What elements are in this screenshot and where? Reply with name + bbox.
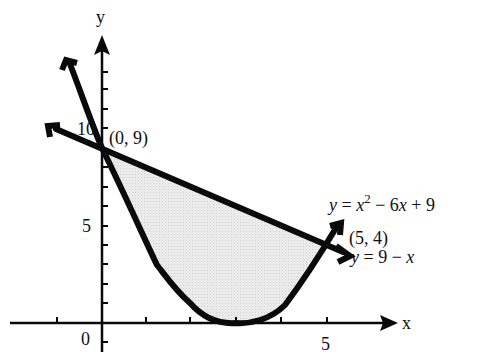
eq-var-y: y <box>327 195 337 215</box>
parabola-equation-label: y = x2 − 6x + 9 <box>327 191 435 215</box>
point-label-0-9: (0, 9) <box>109 128 148 149</box>
graph-canvas: y x 0 5 5 10 (0, 9) (5, 4) y = x2 − 6x +… <box>0 0 478 355</box>
x-tick-label-5: 5 <box>321 334 330 354</box>
line-eq-mid: = 9 − <box>359 247 406 267</box>
line-equation-label: y = 9 − x <box>349 247 414 267</box>
origin-label: 0 <box>81 329 90 349</box>
line-eq-x: x <box>405 247 414 267</box>
y-axis <box>94 35 110 352</box>
eq-plus-9: + 9 <box>407 195 435 215</box>
line-eq-y: y <box>349 247 359 267</box>
eq-var-x2: x <box>398 195 407 215</box>
y-tick-label-10: 10 <box>77 119 95 139</box>
eq-var-x: x <box>355 195 364 215</box>
eq-minus-6: − 6 <box>371 195 399 215</box>
y-axis-label: y <box>96 7 105 27</box>
point-label-5-4: (5, 4) <box>349 228 388 249</box>
x-axis-label: x <box>402 313 411 333</box>
y-tick-label-5: 5 <box>82 216 91 236</box>
eq-equals: = <box>337 195 356 215</box>
